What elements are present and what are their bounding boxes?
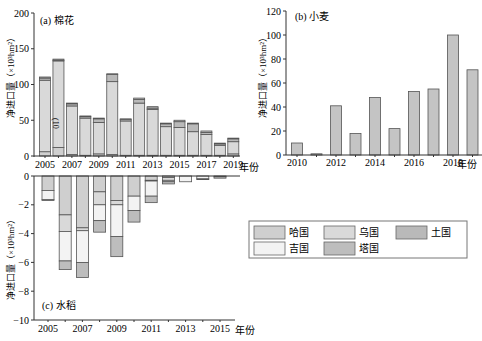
bar-segment-kazakhstan <box>40 152 51 156</box>
figure: 050100150200 200520072009201120132015201… <box>0 0 482 341</box>
bar-segment-tajikistan <box>201 131 212 132</box>
x-tick-label: 2011 <box>141 323 161 334</box>
chart-a-annotation: (10 <box>51 118 60 129</box>
x-tick-label: 2015 <box>210 323 230 334</box>
chart-c-rice: 0−2−4−6−8−10 200520072009201120132015 (c… <box>5 171 255 337</box>
bar-segment-uzbekistan <box>174 127 185 155</box>
chart-a-title: (a) 棉花 <box>40 14 74 27</box>
bar-segment-tajikistan <box>94 221 106 233</box>
bar-segment-uzbekistan <box>120 121 131 155</box>
legend-label-kazakhstan: 哈国 <box>289 226 309 238</box>
y-tick-label: −10 <box>13 315 29 326</box>
chart-b-x-label: 年份 <box>457 158 477 170</box>
x-tick-label: 2015 <box>170 159 190 170</box>
bar-segment-uzbekistan <box>93 122 104 153</box>
bar <box>331 106 342 155</box>
bar-segment-turkmenistan <box>187 124 198 132</box>
bar-segment-turkmenistan <box>107 74 118 81</box>
bar-segment-uzbekistan <box>66 106 77 155</box>
legend: 哈国乌国土国吉国塔国 <box>249 221 467 258</box>
bar <box>350 133 361 155</box>
bar-segment-tajikistan <box>187 123 198 124</box>
y-tick-label: −8 <box>18 286 29 297</box>
bar-segment-uzbekistan <box>80 118 91 155</box>
chart-a-bars <box>40 59 239 156</box>
chart-c-bars <box>42 176 226 278</box>
legend-swatch-tajikistan <box>324 242 355 255</box>
bar-segment-kyrgyzstan <box>59 231 71 261</box>
bar-segment-tajikistan <box>128 211 140 223</box>
bar-segment-uzbekistan <box>40 80 51 151</box>
bar-segment-kazakhstan <box>53 147 64 156</box>
bar-segment-tajikistan <box>161 123 172 124</box>
x-tick-label: 2009 <box>89 159 109 170</box>
bar-segment-turkmenistan <box>228 139 239 142</box>
bar <box>448 35 459 155</box>
bar-segment-uzbekistan <box>134 103 145 155</box>
bar <box>292 143 303 155</box>
chart-b-wheat: 020406080100120 20102012201420162018 (b)… <box>257 6 482 171</box>
bar-segment-tajikistan <box>214 143 225 144</box>
chart-c-x-label: 年份 <box>235 324 255 336</box>
bar-segment-tajikistan <box>120 119 131 120</box>
bar-segment-uzbekistan <box>76 228 88 231</box>
bar-segment-uzbekistan <box>53 61 64 148</box>
x-tick-label: 2016 <box>404 157 424 168</box>
bar-segment-kyrgyzstan <box>111 205 123 237</box>
bar-segment-tajikistan <box>93 118 104 119</box>
y-tick-label: 20 <box>271 126 281 137</box>
bar-segment-kyrgyzstan <box>76 231 88 263</box>
bar-segment-tajikistan <box>42 200 54 201</box>
bar-segment-tajikistan <box>197 179 209 180</box>
chart-c-y-ticks: 0−2−4−6−8−10 <box>13 171 34 326</box>
bar-segment-tajikistan <box>66 103 77 104</box>
y-tick-label: 100 <box>14 79 29 90</box>
bar-segment-kazakhstan <box>76 176 88 228</box>
bar-segment-uzbekistan <box>161 127 172 156</box>
bar-segment-turkmenistan <box>174 122 185 128</box>
legend-swatch-uzbekistan <box>324 226 355 239</box>
x-tick-label: 2005 <box>35 159 55 170</box>
bar-segment-tajikistan <box>40 77 51 78</box>
x-tick-label: 2011 <box>116 159 136 170</box>
x-tick-label: 2007 <box>62 159 82 170</box>
y-tick-label: 60 <box>271 78 281 89</box>
y-tick-label: −4 <box>18 228 29 239</box>
bar-segment-uzbekistan <box>111 200 123 204</box>
chart-a-x-label: 年份 <box>239 161 259 173</box>
bar-segment-tajikistan <box>162 182 174 184</box>
bar-segment-uzbekistan <box>214 145 225 155</box>
legend-label-kyrgyzstan: 吉国 <box>289 243 309 254</box>
bar-segment-kazakhstan <box>42 176 54 190</box>
chart-c-title: (c) 水稻 <box>42 300 76 312</box>
x-tick-label: 2013 <box>176 323 196 334</box>
bar-segment-uzbekistan <box>187 132 198 156</box>
y-tick-label: −6 <box>18 257 29 268</box>
bar-segment-kyrgyzstan <box>42 190 54 199</box>
bar-segment-turkmenistan <box>134 100 145 104</box>
y-tick-label: 0 <box>24 171 29 182</box>
bar-segment-tajikistan <box>147 107 158 108</box>
bar-segment-tajikistan <box>174 120 185 121</box>
y-tick-label: 80 <box>271 54 281 65</box>
y-tick-label: 0 <box>24 151 29 162</box>
chart-b-title: (b) 小麦 <box>295 11 329 23</box>
bar-segment-turkmenistan <box>161 124 172 127</box>
bar-segment-tajikistan <box>134 98 145 99</box>
bar-segment-uzbekistan <box>228 142 239 154</box>
bar-segment-tajikistan <box>214 177 226 178</box>
bar-segment-uzbekistan <box>147 110 158 156</box>
bar <box>428 89 439 155</box>
bar-segment-tajikistan <box>80 116 91 117</box>
bar <box>409 91 420 155</box>
bar-segment-kazakhstan <box>128 176 140 196</box>
chart-a-y-label: 净进口量（×10³hm²） <box>5 33 16 118</box>
bar-segment-tajikistan <box>145 196 157 202</box>
bar-segment-kyrgyzstan <box>94 205 106 221</box>
y-tick-label: 50 <box>19 115 29 126</box>
bar-segment-uzbekistan <box>59 215 71 232</box>
bar-segment-tajikistan <box>76 262 88 277</box>
bar-segment-uzbekistan <box>107 82 118 155</box>
bar-segment-tajikistan <box>59 261 71 270</box>
bar <box>370 97 381 155</box>
